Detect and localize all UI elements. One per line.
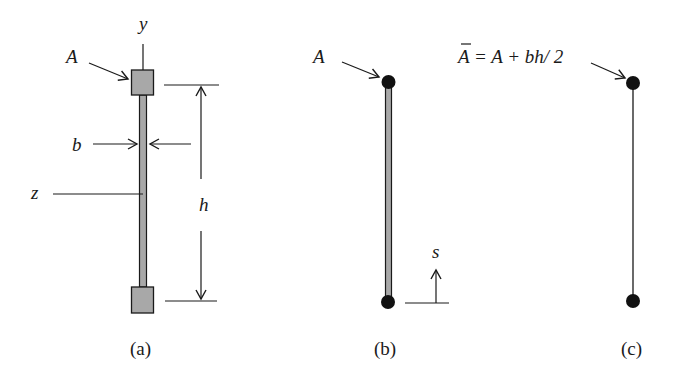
web: [386, 82, 392, 301]
caption-c: (c): [621, 338, 642, 360]
area-label: A: [311, 46, 325, 67]
web: [140, 95, 147, 287]
height-label: h: [199, 194, 209, 215]
caption-a: (a): [130, 338, 151, 360]
equivalent-area-equation: = A + bh/ 2: [474, 46, 564, 67]
caption-b: (b): [374, 338, 396, 360]
y-axis-label: y: [137, 13, 148, 34]
panel-c: A = A + bh/ 2 (c): [456, 44, 642, 360]
z-axis-label: z: [30, 182, 39, 203]
bottom-boom-icon: [381, 295, 395, 309]
equivalent-area-arrow-icon: [591, 63, 625, 78]
bottom-boom-icon: [626, 294, 640, 308]
equivalent-area-symbol: A: [456, 46, 470, 67]
area-label: A: [64, 46, 78, 67]
top-flange-area: [132, 70, 154, 95]
top-boom-icon: [382, 75, 396, 89]
top-boom-icon: [626, 76, 640, 90]
area-arrow-icon: [342, 62, 379, 77]
s-coordinate-label: s: [432, 241, 439, 262]
panel-b: A s (b): [311, 46, 449, 360]
area-arrow-icon: [89, 63, 128, 79]
idealized-beam-diagram: y A b z h (a) A s (b): [0, 0, 674, 379]
panel-a: y A b z h (a): [30, 13, 219, 360]
thickness-label: b: [72, 134, 82, 155]
bottom-flange-area: [132, 287, 154, 313]
